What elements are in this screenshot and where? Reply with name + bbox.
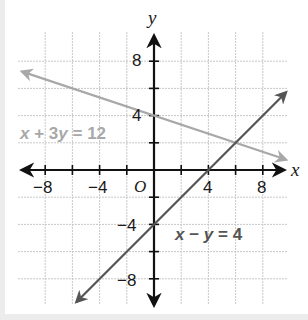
x-tick-label: −4 xyxy=(88,178,107,197)
coordinate-plane: y x O −8 −4 4 8 8 4 −4 −8 x + 3y = 12 x … xyxy=(0,0,308,320)
equation-label-2: x − y = 4 xyxy=(174,225,243,244)
x-tick-label: 8 xyxy=(257,178,266,197)
x-axis-label: x xyxy=(290,159,300,180)
x-tick-label: −8 xyxy=(33,178,52,197)
x-tick-label: 4 xyxy=(203,178,212,197)
graph-frame: y x O −8 −4 4 8 8 4 −4 −8 x + 3y = 12 x … xyxy=(0,0,308,320)
y-tick-label: −4 xyxy=(117,216,136,235)
equation-label-1: x + 3y = 12 xyxy=(19,124,106,143)
y-tick-label: 8 xyxy=(132,51,141,70)
y-tick-label: 4 xyxy=(132,106,141,125)
y-axis-label: y xyxy=(146,7,157,28)
origin-label: O xyxy=(134,177,146,196)
y-tick-label: −8 xyxy=(117,271,136,290)
